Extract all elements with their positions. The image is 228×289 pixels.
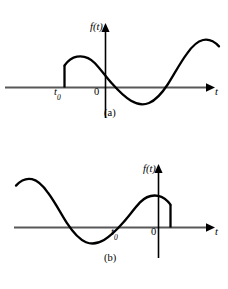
plot-b <box>0 145 228 289</box>
caption-a: (a) <box>104 108 116 119</box>
t-axis-a <box>5 83 215 92</box>
signal-curve-b <box>16 179 171 244</box>
t-axis-arrow-b <box>206 223 215 232</box>
figure-panel-b: f(t) t0 0 t (b) <box>0 145 228 289</box>
t0-label-a: t0 <box>54 87 61 100</box>
t-axis-label-b: t <box>215 227 218 238</box>
f-axis-label-a: f(t) <box>90 22 103 33</box>
caption-b: (b) <box>104 253 116 264</box>
figure-panel-a: f(t) t0 0 t (a) <box>0 0 228 145</box>
f-axis-label-b: f(t) <box>143 164 156 175</box>
f-axis-b <box>154 164 162 258</box>
plot-a <box>0 0 228 145</box>
t0-label-a-sub: 0 <box>57 93 61 102</box>
t-axis-arrow-a <box>206 83 215 92</box>
t-axis-label-a: t <box>215 87 218 98</box>
origin-label-a: 0 <box>94 87 99 98</box>
signal-curve-a <box>65 40 220 105</box>
t0-label-b: t0 <box>111 227 118 240</box>
origin-label-b: 0 <box>151 227 156 238</box>
t0-label-b-sub: 0 <box>114 233 118 242</box>
